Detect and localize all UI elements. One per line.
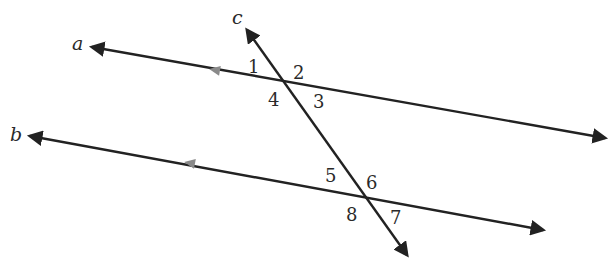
angle-label-7: 7 (390, 207, 401, 228)
line-c (247, 30, 407, 255)
line-label-a: a (72, 32, 83, 54)
angle-label-8: 8 (346, 204, 357, 225)
angle-label-6: 6 (366, 172, 377, 193)
angle-label-5: 5 (325, 165, 336, 186)
transversal-diagram: abc12345678 (0, 0, 614, 259)
line-label-c: c (232, 6, 243, 28)
angle-label-2: 2 (293, 62, 304, 83)
line-label-b: b (10, 123, 22, 145)
line-b (30, 136, 543, 230)
labels-layer: abc12345678 (10, 6, 401, 228)
parallel-markers (184, 66, 221, 169)
angle-label-1: 1 (248, 56, 259, 77)
angle-label-3: 3 (313, 91, 324, 112)
line-a (92, 47, 605, 138)
angle-label-4: 4 (268, 89, 279, 110)
lines-layer (30, 30, 605, 255)
